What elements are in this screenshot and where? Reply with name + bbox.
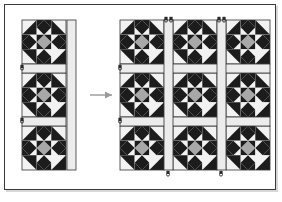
quilt-assembly-figure: [0, 0, 282, 202]
left-block-column: [20, 20, 76, 170]
horizontal-sashing-strip: [22, 64, 66, 73]
quilt-block: [120, 73, 164, 117]
quilt-block: [173, 126, 217, 170]
quilt-block: [226, 73, 270, 117]
vertical-sashing-strip: [217, 20, 226, 170]
assembly-arrow-icon: [90, 92, 112, 99]
vertical-sashing-strip: [67, 20, 76, 170]
vertical-sashing-strip: [164, 20, 173, 170]
quilt-block: [120, 126, 164, 170]
horizontal-sashing-strip: [120, 117, 270, 126]
pin-mark-icon: [219, 171, 222, 176]
quilt-block: [22, 20, 66, 64]
quilt-block: [226, 126, 270, 170]
figure-stage: [0, 0, 282, 202]
right-block-grid: [118, 17, 270, 176]
quilt-block: [226, 20, 270, 64]
quilt-block: [120, 20, 164, 64]
horizontal-sashing-strip: [120, 64, 270, 73]
quilt-block: [22, 126, 66, 170]
quilt-diagram-canvas: [0, 0, 282, 202]
quilt-block: [173, 20, 217, 64]
pin-mark-icon: [166, 171, 169, 176]
quilt-block: [173, 73, 217, 117]
horizontal-sashing-strip: [22, 117, 66, 126]
quilt-block: [22, 73, 66, 117]
